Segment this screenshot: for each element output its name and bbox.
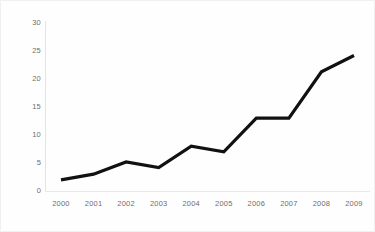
y-axis-tick-labels: 051015202530 xyxy=(1,1,41,232)
x-tick-label: 2009 xyxy=(337,199,371,208)
y-tick-label: 10 xyxy=(3,131,41,139)
line-chart-figure: 051015202530 200020012002200320042005200… xyxy=(0,0,375,232)
x-tick-label: 2000 xyxy=(44,199,78,208)
y-tick-label: 15 xyxy=(3,103,41,111)
data-series-line xyxy=(61,55,354,179)
x-axis-line xyxy=(45,191,370,192)
x-tick-label: 2002 xyxy=(109,199,143,208)
x-tick-label: 2008 xyxy=(304,199,338,208)
series-svg xyxy=(46,23,369,191)
y-tick-label: 25 xyxy=(3,47,41,55)
x-tick-label: 2004 xyxy=(174,199,208,208)
x-tick-label: 2001 xyxy=(77,199,111,208)
y-tick-label: 5 xyxy=(3,159,41,167)
x-axis-tick-labels: 2000200120022003200420052006200720082009 xyxy=(46,199,369,211)
plot-area xyxy=(46,23,369,191)
x-tick-label: 2005 xyxy=(207,199,241,208)
x-tick-label: 2006 xyxy=(239,199,273,208)
y-tick-label: 0 xyxy=(3,187,41,195)
y-tick-label: 30 xyxy=(3,19,41,27)
y-tick-label: 20 xyxy=(3,75,41,83)
x-tick-label: 2007 xyxy=(272,199,306,208)
x-tick-label: 2003 xyxy=(142,199,176,208)
